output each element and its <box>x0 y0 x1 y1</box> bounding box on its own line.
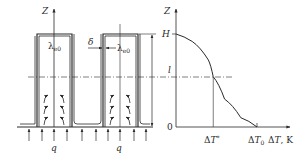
figure: Z λe0 λe0 δ q q Z H l 0 ΔT* ΔT0 ΔT, K <box>0 0 306 165</box>
heat-curl-icon <box>126 106 130 114</box>
fin-label-left: λe0 <box>48 41 61 52</box>
heat-curl-icon <box>126 117 130 125</box>
heat-curl-icon <box>60 95 64 103</box>
z-vs-dt-curve <box>176 34 257 127</box>
heat-curl-icon <box>110 106 114 114</box>
gap-label: δ <box>88 37 93 47</box>
heat-curl-icon <box>44 117 48 125</box>
y-axis-label: Z <box>163 6 171 16</box>
heat-flux-arrows <box>29 129 146 141</box>
x-tick-dt0: ΔT0 <box>248 135 265 146</box>
heat-flux-label-right: q <box>116 143 122 153</box>
heat-curl-icon <box>44 95 48 103</box>
heat-curl-icon <box>126 95 130 103</box>
heat-curl-icon <box>110 95 114 103</box>
fin-label-right: λe0 <box>117 43 130 54</box>
fin-gap-liner <box>74 34 101 124</box>
heat-flow-arrows <box>44 95 130 125</box>
z-axis-label: Z <box>41 6 49 16</box>
x-axis-label: ΔT, K <box>268 135 293 145</box>
heat-flux-label-left: q <box>51 143 57 153</box>
y-tick-0: 0 <box>167 122 173 132</box>
temperature-chart: Z H l 0 ΔT* ΔT0 ΔT, K <box>161 6 293 146</box>
fin-left-liner-outer <box>20 36 35 124</box>
heat-curl-icon <box>60 106 64 114</box>
y-tick-H: H <box>161 29 170 39</box>
heat-curl-icon <box>60 117 64 125</box>
heat-curl-icon <box>110 117 114 125</box>
heat-curl-icon <box>44 106 48 114</box>
fin-right-liner-outer <box>140 34 150 124</box>
x-tick-dt-star: ΔT* <box>204 134 220 145</box>
y-tick-l: l <box>168 65 171 75</box>
fin-panel: Z λe0 λe0 δ q q <box>17 6 232 153</box>
